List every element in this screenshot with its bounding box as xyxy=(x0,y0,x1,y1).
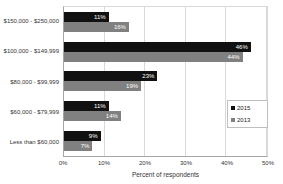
data-label: 44% xyxy=(228,52,243,62)
bar-2015: 46% xyxy=(64,42,251,52)
category-label: $80,000 - $99,999 xyxy=(0,66,59,96)
bar-2013: 44% xyxy=(64,52,243,62)
category-axis-labels: $150,000 - $250,000$100,000 - $149,999$8… xyxy=(0,6,59,157)
bar-2015: 9% xyxy=(64,131,101,141)
bar-group: 9%7% xyxy=(64,126,267,156)
legend-label: 2013 xyxy=(237,117,250,123)
bar-chart: $150,000 - $250,000$100,000 - $149,999$8… xyxy=(0,0,283,184)
legend-swatch-2015 xyxy=(231,106,235,110)
x-tick-label: 10% xyxy=(98,160,110,166)
data-label: 14% xyxy=(106,111,121,121)
bar-2015: 11% xyxy=(64,101,109,111)
data-label: 7% xyxy=(81,141,93,151)
x-tick-label: 50% xyxy=(262,160,274,166)
category-label: $150,000 - $250,000 xyxy=(0,6,59,36)
x-axis-title: Percent of respondents xyxy=(63,171,268,178)
legend: 20152013 xyxy=(227,100,268,128)
x-tick-label: 0% xyxy=(59,160,68,166)
data-label: 46% xyxy=(236,42,251,52)
bar-group: 11%16% xyxy=(64,7,267,37)
legend-item-2013: 2013 xyxy=(231,117,264,123)
bar-2013: 7% xyxy=(64,141,92,151)
bar-2013: 16% xyxy=(64,22,129,32)
x-axis-tick-labels: 0%10%20%30%40%50% xyxy=(63,160,268,168)
x-tick-label: 40% xyxy=(221,160,233,166)
data-label: 11% xyxy=(94,12,109,22)
bar-group: 23%19% xyxy=(64,67,267,97)
category-label: $100,000 - $149,999 xyxy=(0,36,59,66)
legend-label: 2015 xyxy=(237,105,250,111)
legend-swatch-2013 xyxy=(231,118,235,122)
plot-area: 11%16%46%44%23%19%11%14%9%7% xyxy=(63,6,268,157)
x-tick-label: 20% xyxy=(139,160,151,166)
data-label: 16% xyxy=(114,22,129,32)
legend-item-2015: 2015 xyxy=(231,105,264,111)
bar-groups: 11%16%46%44%23%19%11%14%9%7% xyxy=(64,7,267,156)
bar-2015: 11% xyxy=(64,12,109,22)
data-label: 11% xyxy=(94,101,109,111)
x-tick-label: 30% xyxy=(180,160,192,166)
bar-2015: 23% xyxy=(64,71,157,81)
data-label: 9% xyxy=(89,131,101,141)
bar-2013: 19% xyxy=(64,81,141,91)
data-label: 23% xyxy=(142,71,157,81)
bar-2013: 14% xyxy=(64,111,121,121)
category-label: $60,000 - $79,999 xyxy=(0,97,59,127)
category-label: Less than $60,000 xyxy=(0,127,59,157)
bar-group: 46%44% xyxy=(64,37,267,67)
data-label: 19% xyxy=(126,81,141,91)
